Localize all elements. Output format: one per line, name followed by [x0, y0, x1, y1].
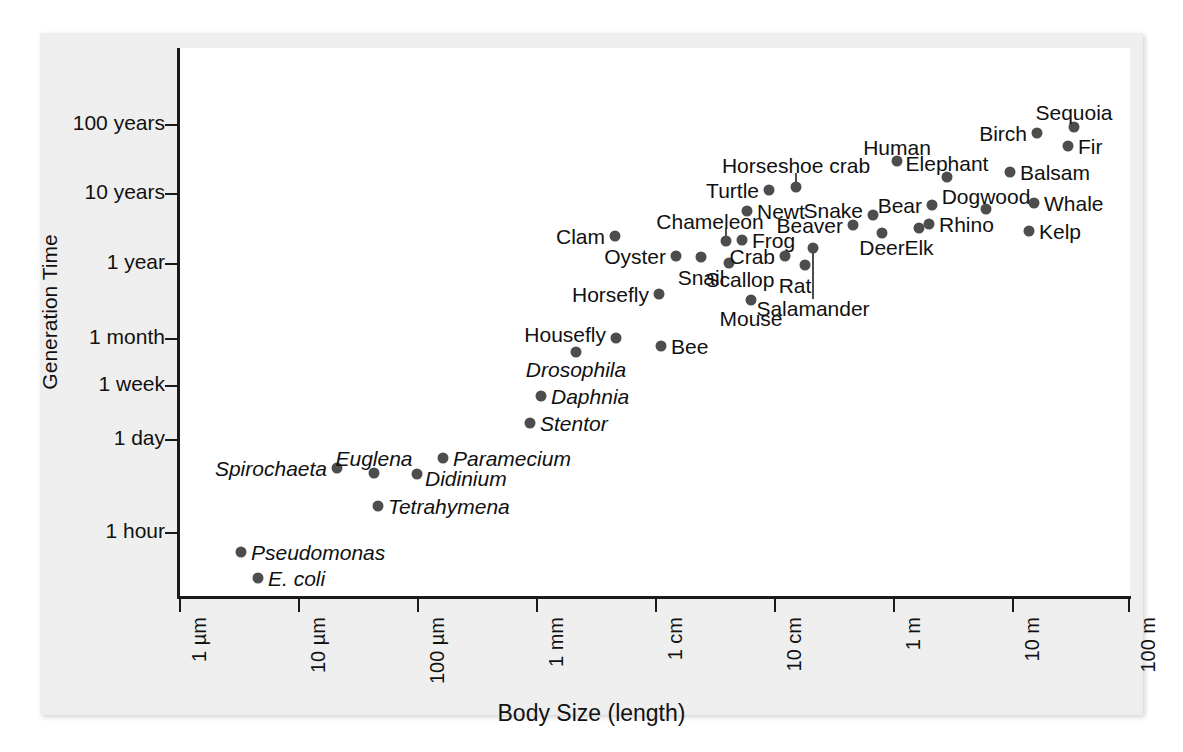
y-axis-tick-label: 1 day [0, 426, 165, 450]
data-label-whale: Whale [1044, 193, 1104, 214]
y-axis-tick-label: 1 hour [0, 519, 165, 543]
data-label-horsefly: Horsefly [572, 284, 649, 305]
y-axis-tick-label: 10 years [0, 180, 165, 204]
data-point-bee[interactable] [656, 341, 667, 352]
data-point-housefly[interactable] [611, 333, 622, 344]
x-axis-tick [179, 599, 181, 612]
data-label-sequoia: Sequoia [1035, 102, 1112, 123]
x-axis-tick [1012, 599, 1014, 612]
data-label-deer: Deer [859, 237, 905, 258]
data-point-crab[interactable] [780, 251, 791, 262]
x-axis-tick-label: 1 cm [664, 617, 687, 660]
data-label-rhino: Rhino [939, 214, 994, 235]
data-point-salamander[interactable] [808, 243, 819, 254]
data-point-whale[interactable] [1029, 198, 1040, 209]
data-point-horsefly[interactable] [654, 289, 665, 300]
data-label-spirochaeta: Spirochaeta [215, 458, 327, 479]
x-axis-tick-label: 1 mm [545, 617, 568, 667]
data-label-stentor: Stentor [540, 413, 608, 434]
data-point-mouse[interactable] [746, 295, 757, 306]
x-axis-tick-label: 1 m [902, 617, 925, 650]
data-label-elk: Elk [904, 237, 933, 258]
x-axis-tick [774, 599, 776, 612]
data-point-e-coli[interactable] [253, 573, 264, 584]
data-point-clam[interactable] [610, 231, 621, 242]
y-axis-tick [165, 193, 178, 195]
y-axis-title: Generation Time [38, 202, 62, 422]
data-label-bear: Bear [878, 195, 922, 216]
y-axis-tick [165, 439, 178, 441]
data-label-dogwood: Dogwood [942, 186, 1031, 207]
y-axis-tick-label: 1 year [0, 250, 165, 274]
x-axis-tick-label: 10 m [1021, 617, 1044, 661]
data-label-didinium: Didinium [425, 468, 507, 489]
data-label-balsam: Balsam [1020, 162, 1090, 183]
data-label-elephant: Elephant [906, 153, 989, 174]
data-label-oyster: Oyster [604, 246, 666, 267]
x-axis-tick [298, 599, 300, 612]
data-label-e-coli: E. coli [268, 568, 325, 589]
data-label-kelp: Kelp [1039, 221, 1081, 242]
data-label-snake: Snake [803, 200, 863, 221]
x-axis-line [177, 596, 1131, 599]
x-axis-tick [536, 599, 538, 612]
y-axis-tick [165, 263, 178, 265]
x-axis-tick [655, 599, 657, 612]
x-axis-title: Body Size (length) [0, 700, 1183, 727]
data-point-paramecium[interactable] [438, 453, 449, 464]
figure-root: 100 years10 years1 year1 month1 week1 da… [0, 0, 1183, 752]
data-label-paramecium: Paramecium [453, 448, 571, 469]
data-point-oyster[interactable] [671, 251, 682, 262]
data-point-daphnia[interactable] [536, 391, 547, 402]
data-label-daphnia: Daphnia [551, 386, 629, 407]
data-point-horseshoe-crab[interactable] [791, 182, 802, 193]
data-point-snail[interactable] [696, 252, 707, 263]
data-point-drosophila[interactable] [571, 347, 582, 358]
data-label-clam: Clam [556, 226, 605, 247]
y-axis-tick-label: 1 week [0, 372, 165, 396]
data-label-salamander: Salamander [756, 298, 869, 319]
data-point-kelp[interactable] [1024, 226, 1035, 237]
x-axis-tick [893, 599, 895, 612]
x-axis-tick-label: 10 cm [783, 617, 806, 671]
data-point-fir[interactable] [1063, 141, 1074, 152]
data-label-scallop: Scallop [706, 269, 775, 290]
x-axis-tick [1128, 599, 1130, 612]
data-point-birch[interactable] [1032, 128, 1043, 139]
data-point-didinium[interactable] [412, 469, 423, 480]
x-axis-tick [417, 599, 419, 612]
x-axis-tick-label: 10 µm [307, 617, 330, 673]
data-point-tetrahymena[interactable] [373, 501, 384, 512]
data-point-balsam[interactable] [1005, 167, 1016, 178]
data-label-drosophila: Drosophila [526, 359, 626, 380]
y-axis-tick [165, 124, 178, 126]
data-point-stentor[interactable] [525, 418, 536, 429]
data-point-newt[interactable] [742, 206, 753, 217]
x-axis-tick-label: 1 µm [188, 617, 211, 662]
y-axis-line [177, 48, 180, 598]
data-label-fir: Fir [1078, 136, 1103, 157]
salamander-leader [812, 248, 814, 299]
data-label-bee: Bee [671, 336, 708, 357]
data-point-rhino[interactable] [924, 219, 935, 230]
y-axis-tick [165, 338, 178, 340]
data-point-bear[interactable] [927, 200, 938, 211]
y-axis-tick [165, 532, 178, 534]
data-label-pseudomonas: Pseudomonas [251, 542, 385, 563]
data-point-turtle[interactable] [764, 185, 775, 196]
x-axis-tick-label: 100 µm [426, 617, 449, 684]
data-point-pseudomonas[interactable] [236, 547, 247, 558]
x-axis-tick-label: 100 m [1137, 617, 1160, 673]
data-label-tetrahymena: Tetrahymena [388, 496, 510, 517]
data-label-birch: Birch [979, 123, 1027, 144]
data-label-rat: Rat [779, 275, 812, 296]
data-label-euglena: Euglena [335, 448, 412, 469]
data-point-rat[interactable] [800, 260, 811, 271]
data-label-turtle: Turtle [706, 180, 759, 201]
y-axis-tick-label: 100 years [0, 111, 165, 135]
y-axis-tick [165, 385, 178, 387]
data-label-crab: Crab [729, 246, 775, 267]
data-label-housefly: Housefly [524, 324, 606, 345]
y-axis-tick-label: 1 month [0, 325, 165, 349]
data-label-horseshoe-crab: Horseshoe crab [722, 155, 870, 176]
